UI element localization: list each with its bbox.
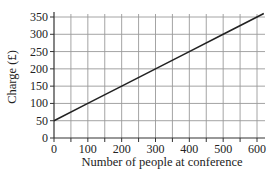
y-tick-label: 350 xyxy=(30,10,48,24)
x-tick-label: 300 xyxy=(147,142,165,156)
x-tick-label: 600 xyxy=(248,142,266,156)
axes xyxy=(50,12,265,142)
x-tick-label: 0 xyxy=(51,142,57,156)
y-tick-label: 150 xyxy=(30,79,48,93)
y-tick-label: 250 xyxy=(30,45,48,59)
y-tick-label: 300 xyxy=(30,27,48,41)
line-chart: 050100150200250300350 010020030040050060… xyxy=(0,0,278,180)
y-tick-label: 0 xyxy=(42,131,48,145)
grid-lines xyxy=(54,14,265,138)
x-tick-label: 500 xyxy=(214,142,232,156)
y-axis-title: Charge (£) xyxy=(5,50,19,104)
y-axis-tick-labels: 050100150200250300350 xyxy=(30,10,48,145)
x-axis-title: Number of people at conference xyxy=(81,155,242,169)
x-tick-label: 400 xyxy=(180,142,198,156)
data-series xyxy=(54,14,264,121)
y-tick-label: 200 xyxy=(30,62,48,76)
y-tick-label: 50 xyxy=(36,114,48,128)
x-axis-tick-labels: 0100200300400500600 xyxy=(51,142,266,156)
x-tick-label: 100 xyxy=(79,142,97,156)
x-tick-label: 200 xyxy=(113,142,131,156)
charge-line xyxy=(54,14,264,121)
y-tick-label: 100 xyxy=(30,96,48,110)
